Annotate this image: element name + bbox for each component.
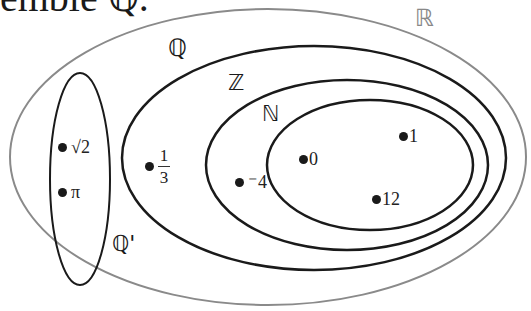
point-twelve: 12 [372,190,400,208]
point-neg4: ⁻4 [235,173,267,191]
natural-set-label: ℕ [262,103,280,125]
integer-set-ellipse [206,80,488,250]
real-set-label: ℝ [415,6,434,30]
point-zero: 0 [299,150,318,168]
point-sqrt2: √2 [58,138,90,156]
number-sets-venn-diagram: emble ℚ. ℝ ℚ ℤ ℕ ℚ' √2 π 1 3 ⁻4 0 1 [0,0,531,311]
point-label: √2 [71,138,90,156]
point-label: 0 [309,150,318,168]
point-label: ⁻4 [248,173,267,191]
rational-set-label: ℚ [168,36,187,60]
point-dot [399,132,408,141]
fraction-bar [158,166,170,167]
point-dot [58,143,67,152]
natural-set-ellipse [267,100,473,230]
point-dot [299,155,308,164]
point-one-third: 1 3 [145,147,170,186]
fraction-numerator: 1 [160,147,169,164]
point-pi: π [58,183,80,201]
point-one: 1 [399,127,418,145]
point-dot [372,195,381,204]
fraction-denominator: 3 [160,169,169,186]
point-label: 1 [409,127,418,145]
point-dot [58,188,67,197]
point-label: π [71,183,80,201]
irrational-set-label: ℚ' [112,233,135,255]
point-dot [235,178,244,187]
point-label: 12 [382,190,400,208]
integer-set-label: ℤ [228,72,244,94]
irrational-set-ellipse [50,73,110,285]
point-dot [145,162,154,171]
fraction-label: 1 3 [158,147,170,186]
